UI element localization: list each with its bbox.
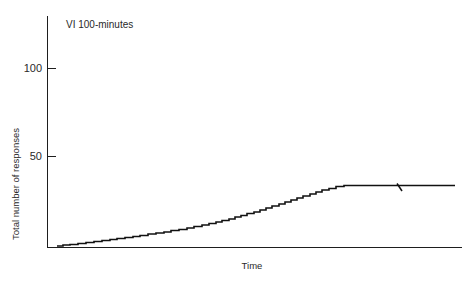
x-axis-title: Time bbox=[242, 260, 263, 271]
chart-canvas: 100 50 Total number of responses Time VI… bbox=[0, 0, 476, 281]
y-tick-label-100: 100 bbox=[24, 62, 42, 74]
reinforcement-hatch-mark bbox=[397, 184, 402, 192]
y-tick-label-50: 50 bbox=[30, 150, 42, 162]
cumulative-record-figure: 100 50 Total number of responses Time VI… bbox=[0, 0, 476, 281]
cumulative-response-curve bbox=[57, 186, 455, 247]
panel-title: VI 100-minutes bbox=[66, 19, 133, 30]
y-axis-title: Total number of responses bbox=[10, 128, 21, 240]
